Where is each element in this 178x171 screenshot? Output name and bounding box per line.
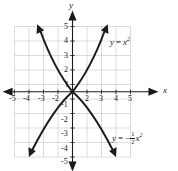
x-tick-label-5: 5 xyxy=(128,95,132,103)
y-tick-label-neg1: -1 xyxy=(61,101,68,109)
x-tick-label-neg5: -5 xyxy=(9,95,16,103)
x-tick-label-neg4: -4 xyxy=(23,95,30,103)
equation-upper-equals: = xyxy=(116,37,121,47)
equation-upper-lhs: y xyxy=(110,37,114,47)
y-tick-label-4: 4 xyxy=(64,37,68,45)
equation-label-lower-parabola: y=−12x2 xyxy=(112,131,142,146)
equation-lower-lhs: y xyxy=(112,133,116,143)
equation-lower-equals: = xyxy=(118,133,123,143)
y-tick-label-1: 1 xyxy=(65,81,69,89)
equation-lower-exponent: 2 xyxy=(139,132,142,138)
x-tick-label-3: 3 xyxy=(99,95,103,103)
y-tick-label-5: 5 xyxy=(64,23,68,31)
x-tick-label-4: 4 xyxy=(114,95,118,103)
y-tick-label-neg4: -4 xyxy=(61,145,68,153)
y-tick-label-3: 3 xyxy=(64,52,68,60)
x-tick-label-neg3: -3 xyxy=(38,95,45,103)
y-tick-label-neg2: -2 xyxy=(61,116,68,124)
y-tick-label-2: 2 xyxy=(64,66,68,74)
equation-upper-exponent: 2 xyxy=(127,36,130,42)
y-tick-label-neg5: -5 xyxy=(61,158,68,166)
x-tick-label-2: 2 xyxy=(85,95,89,103)
y-axis-label: y xyxy=(69,1,73,10)
x-tick-label-neg2: -2 xyxy=(52,95,59,103)
equation-label-upper-parabola: y=x2 xyxy=(110,38,130,47)
coordinate-plane-svg xyxy=(0,0,178,171)
parabola-graph-figure: y x -5 -4 -3 -2 2 3 4 5 5 4 3 2 1 -1 -2 … xyxy=(0,0,178,171)
x-axis-label: x xyxy=(163,86,167,95)
y-tick-label-neg3: -3 xyxy=(61,130,68,138)
